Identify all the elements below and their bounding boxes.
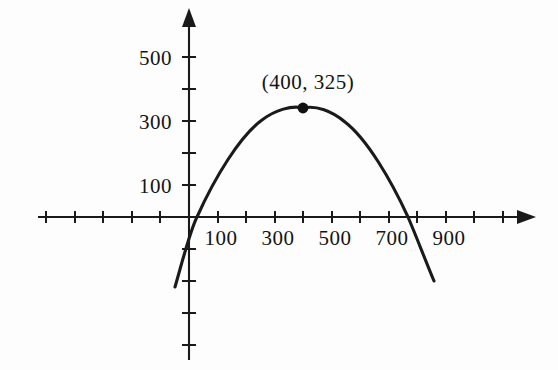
parabola-plot: 500 300 100 100 300 500 700 900 (400, 32… — [0, 0, 558, 370]
x-tick-label-100: 100 — [205, 226, 238, 250]
chart-figure: 500 300 100 100 300 500 700 900 (400, 32… — [0, 0, 558, 370]
x-tick-label-500: 500 — [319, 226, 352, 250]
y-tick-label-100: 100 — [139, 174, 172, 198]
y-tick-label-500: 500 — [139, 46, 172, 70]
y-axis-arrow-icon — [182, 8, 196, 27]
y-tick-label-300: 300 — [139, 110, 172, 134]
x-tick-label-900: 900 — [433, 226, 466, 250]
x-tick-label-300: 300 — [262, 226, 295, 250]
x-axis-arrow-icon — [517, 210, 536, 224]
x-tick-label-700: 700 — [376, 226, 409, 250]
vertex-annotation-label: (400, 325) — [262, 70, 355, 94]
vertex-point-marker — [298, 103, 309, 114]
parabola-curve — [175, 107, 434, 287]
